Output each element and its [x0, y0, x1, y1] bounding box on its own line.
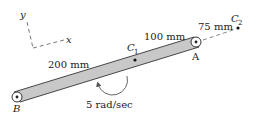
- rotation-arrow-icon: [98, 76, 128, 95]
- label-a: A: [191, 51, 200, 62]
- pin-a: [191, 37, 201, 47]
- dimension-100mm: 100 mm: [144, 31, 186, 42]
- label-b: B: [12, 103, 20, 114]
- pin-b: [12, 92, 22, 102]
- rigid-bar-diagram: y x B A C 1 C 2 200 mm 100 mm 75 mm 5 ra…: [0, 0, 256, 117]
- bar: [14, 37, 199, 102]
- label-c1: C 1: [127, 42, 138, 56]
- svg-text:1: 1: [134, 48, 138, 56]
- svg-text:2: 2: [238, 19, 242, 27]
- y-axis-label: y: [19, 9, 26, 20]
- c1-point: [133, 58, 136, 61]
- x-axis-label: x: [66, 34, 72, 45]
- dimension-75mm: 75 mm: [198, 21, 233, 32]
- dimension-200mm: 200 mm: [48, 59, 90, 70]
- coordinate-axes: y x: [19, 9, 72, 48]
- angular-velocity-label: 5 rad/sec: [86, 99, 133, 110]
